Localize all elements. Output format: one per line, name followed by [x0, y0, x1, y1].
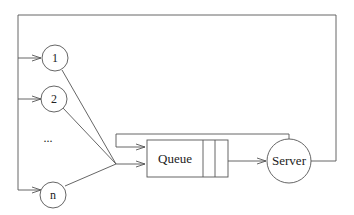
source-to-merge-lines [62, 70, 145, 186]
source-node-2: 2 [41, 86, 67, 112]
source-node-n: n [40, 182, 66, 208]
server-label: Server [272, 153, 307, 168]
source-label-2: 2 [51, 92, 57, 106]
source-label-1: 1 [52, 51, 58, 65]
server-node: Server [267, 139, 311, 183]
queue-label: Queue [158, 151, 192, 166]
sources-ellipsis: ... [44, 131, 53, 145]
queueing-diagram: 1 2 ... n Queue Server [0, 0, 354, 215]
source-node-1: 1 [42, 45, 68, 71]
queue-box: Queue [147, 140, 228, 177]
source-label-n: n [50, 188, 56, 202]
